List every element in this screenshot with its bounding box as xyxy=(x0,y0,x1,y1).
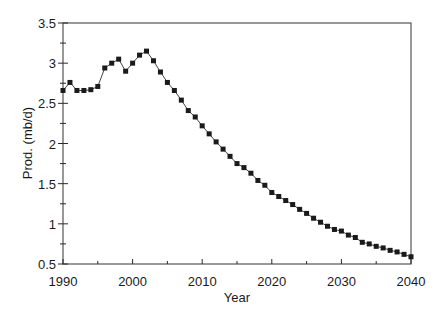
data-point-marker xyxy=(235,161,240,166)
data-point-marker xyxy=(214,139,219,144)
data-point-marker xyxy=(388,248,393,253)
data-point-marker xyxy=(151,58,156,63)
x-tick-label: 1990 xyxy=(49,274,78,289)
data-point-marker xyxy=(325,224,330,229)
data-point-marker xyxy=(88,87,93,92)
data-point-marker xyxy=(297,207,302,212)
data-series xyxy=(61,49,414,260)
data-point-marker xyxy=(353,235,358,240)
data-point-marker xyxy=(248,171,253,176)
data-point-marker xyxy=(311,216,316,221)
x-tick-label: 2010 xyxy=(188,274,217,289)
plot-border xyxy=(63,23,411,264)
data-point-marker xyxy=(102,65,107,70)
data-point-marker xyxy=(179,98,184,103)
production-chart: 199020002010202020302040 0.511.522.533.5… xyxy=(0,0,444,317)
data-point-marker xyxy=(304,211,309,216)
data-point-marker xyxy=(339,229,344,234)
data-point-marker xyxy=(374,244,379,249)
data-point-marker xyxy=(283,198,288,203)
data-point-marker xyxy=(186,108,191,113)
data-point-marker xyxy=(116,57,121,62)
data-point-marker xyxy=(130,61,135,66)
y-tick-label: 3.5 xyxy=(38,16,56,31)
data-point-marker xyxy=(228,154,233,159)
y-tick-label: 0.5 xyxy=(38,257,56,272)
data-point-marker xyxy=(395,249,400,254)
data-point-marker xyxy=(61,88,66,93)
data-point-marker xyxy=(137,53,142,58)
data-point-marker xyxy=(123,69,128,74)
data-point-marker xyxy=(241,165,246,170)
data-point-marker xyxy=(332,227,337,232)
data-point-marker xyxy=(165,80,170,85)
data-point-marker xyxy=(221,147,226,152)
plot-area-frame xyxy=(63,23,411,264)
y-tick-label: 3 xyxy=(49,56,56,71)
data-point-marker xyxy=(172,88,177,93)
x-tick-label: 2000 xyxy=(118,274,147,289)
data-point-marker xyxy=(409,254,414,259)
data-point-marker xyxy=(207,131,212,136)
data-point-marker xyxy=(144,49,149,54)
data-point-marker xyxy=(290,202,295,207)
x-tick-label: 2020 xyxy=(257,274,286,289)
data-point-marker xyxy=(67,80,72,85)
data-point-marker xyxy=(318,220,323,225)
data-point-marker xyxy=(381,245,386,250)
data-point-marker xyxy=(255,178,260,183)
data-point-marker xyxy=(269,190,274,195)
data-point-marker xyxy=(276,194,281,199)
data-point-marker xyxy=(200,123,205,128)
x-tick-label: 2030 xyxy=(327,274,356,289)
y-tick-label: 1 xyxy=(49,217,56,232)
y-tick-label: 2.5 xyxy=(38,96,56,111)
series-line xyxy=(63,51,411,257)
y-axis-title: Prod. (mb/d) xyxy=(20,107,35,179)
data-point-marker xyxy=(193,114,198,119)
data-point-marker xyxy=(74,88,79,93)
x-tick-label: 2040 xyxy=(397,274,426,289)
y-tick-label: 1.5 xyxy=(38,177,56,192)
data-point-marker xyxy=(346,233,351,238)
data-point-marker xyxy=(360,240,365,245)
data-point-marker xyxy=(109,61,114,66)
y-tick-label: 2 xyxy=(49,137,56,152)
data-point-marker xyxy=(402,252,407,257)
x-axis-title: Year xyxy=(224,290,251,305)
data-point-marker xyxy=(367,241,372,246)
data-point-marker xyxy=(262,183,267,188)
data-point-marker xyxy=(95,84,100,89)
data-point-marker xyxy=(158,70,163,75)
data-point-marker xyxy=(81,88,86,93)
